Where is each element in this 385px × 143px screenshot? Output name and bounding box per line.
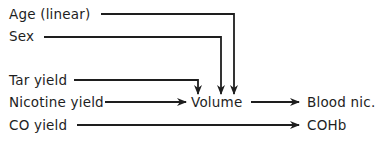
path-diagram: Age (linear) Sex Tar yield Nicotine yiel… xyxy=(0,0,385,143)
edge-age-volume xyxy=(101,14,234,94)
edge-sex-volume xyxy=(44,37,221,94)
edge-tar-volume xyxy=(74,80,198,94)
edge-layer xyxy=(0,0,385,143)
